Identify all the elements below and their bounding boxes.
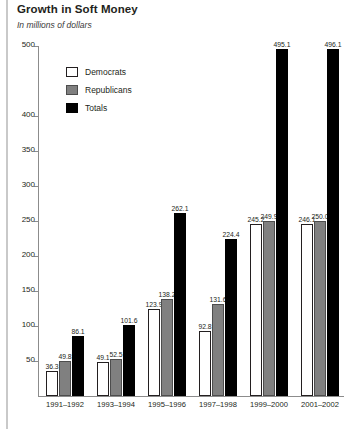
bar-value-label: 86.1 [71,328,84,336]
bar-republicans: 52.5 [110,359,122,396]
page-left-rule [6,0,8,429]
bar-republicans: 49.8 [59,361,71,396]
y-axis-tick-label: 350 [22,145,35,154]
x-axis-category-label: 1993–1994 [97,400,135,409]
y-axis-tick-label: 50 [26,355,35,364]
x-axis-category-label: 1995–1996 [148,400,186,409]
bar-group: 49.152.5101.6 [97,46,135,396]
bar-democrats: 36.3 [46,371,58,396]
bar-totals: 495.1 [276,49,288,396]
bar-group: 92.8131.6224.4 [199,46,237,396]
bar-totals: 86.1 [72,336,84,396]
bar-value-label: 250.0 [311,213,328,221]
x-axis-category-label: 1999–2000 [250,400,288,409]
bar-value-label: 52.5 [109,351,122,359]
bar-value-label: 49.1 [96,354,109,362]
x-axis-category-label: 1997–1998 [199,400,237,409]
bar-group: 123.9138.2262.1 [148,46,186,396]
bar-group: 246.1250.0496.1 [301,46,339,396]
bar-value-label: 92.8 [198,323,211,331]
y-axis-tick-label: 200 [22,250,35,259]
y-axis-tick-label: 500 [22,40,35,49]
bar-value-label: 224.4 [222,231,239,239]
x-axis-line [38,396,344,397]
page-title: Growth in Soft Money [17,3,138,15]
bar-democrats: 245.2 [250,224,262,396]
y-axis-tick-label: 250 [22,215,35,224]
bar-value-label: 496.1 [324,41,341,49]
bar-value-label: 123.9 [145,301,162,309]
bar-totals: 496.1 [327,49,339,396]
chart-page: Growth in Soft Money In millions of doll… [0,0,351,429]
bar-group: 245.2249.9495.1 [250,46,288,396]
y-axis-tick-label: 300 [22,180,35,189]
bar-value-label: 49.8 [58,353,71,361]
bar-value-label: 262.1 [171,205,188,213]
bar-totals: 262.1 [174,213,186,396]
chart-subtitle: In millions of dollars [17,20,92,30]
bar-democrats: 49.1 [97,362,109,396]
x-axis-category-label: 1991–1992 [46,400,84,409]
bar-group: 36.349.886.1 [46,46,84,396]
x-axis-category-label: 2001–2002 [301,400,339,409]
bar-republicans: 250.0 [314,221,326,396]
bar-value-label: 36.3 [45,363,58,371]
y-axis-tick-label: 150 [22,285,35,294]
bar-value-label: 138.2 [158,291,175,299]
plot-area: 50100150200250300350400500 DemocratsRepu… [38,46,344,397]
bar-democrats: 123.9 [148,309,160,396]
bar-republicans: 138.2 [161,299,173,396]
bar-republicans: 249.9 [263,221,275,396]
bar-value-label: 101.6 [120,317,137,325]
bar-republicans: 131.6 [212,304,224,396]
bar-totals: 224.4 [225,239,237,396]
bar-democrats: 246.1 [301,224,313,396]
y-axis-tick-label: 100 [22,320,35,329]
bar-democrats: 92.8 [199,331,211,396]
y-axis-tick-label: 400 [22,110,35,119]
bar-value-label: 131.6 [209,296,226,304]
bar-value-label: 495.1 [273,41,290,49]
bar-value-label: 249.9 [260,213,277,221]
bar-totals: 101.6 [123,325,135,396]
